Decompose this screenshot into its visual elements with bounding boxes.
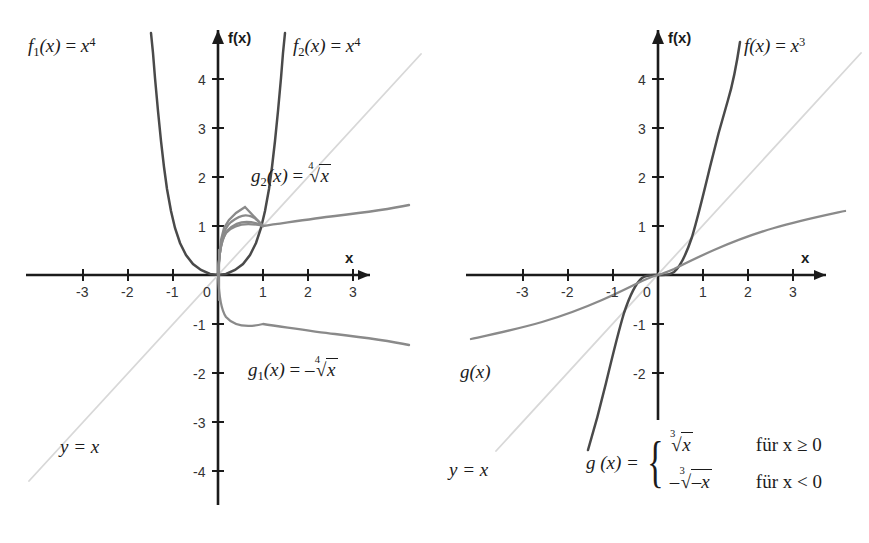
left-ytick-4: 4 bbox=[198, 73, 206, 87]
right-y-axis-name: f(x) bbox=[668, 30, 691, 45]
piecewise-brace: { bbox=[647, 441, 664, 485]
label-identity-right: y = x bbox=[449, 460, 488, 481]
label-f-expr: x bbox=[791, 35, 799, 56]
label-g2-arg: (x) bbox=[267, 165, 288, 186]
radical-index: 4 bbox=[315, 354, 320, 366]
curve-g1 bbox=[218, 275, 409, 345]
left-ytick--2: -2 bbox=[193, 367, 205, 381]
label-f1-exp: 4 bbox=[89, 35, 95, 49]
label-g1-arg: (x) bbox=[264, 359, 285, 380]
radical-radicand: x bbox=[682, 434, 690, 455]
left-y-axis-name: f(x) bbox=[228, 30, 251, 45]
label-f1: f1(x) = x4 bbox=[28, 36, 96, 60]
piecewise-case-1: 3√x für x ≥ 0 bbox=[670, 432, 822, 456]
left-xtick--2: -2 bbox=[121, 285, 133, 299]
left-x-axis bbox=[26, 269, 370, 281]
radical-index: 3 bbox=[680, 465, 685, 476]
piecewise-definition: g (x) = { 3√x für x ≥ 0 –3√–x für x < 0 bbox=[586, 432, 822, 493]
right-ytick-3: 3 bbox=[638, 122, 646, 136]
piecewise-case-2-expr: –3√–x bbox=[670, 469, 756, 493]
left-xtick--1: -1 bbox=[166, 285, 178, 299]
left-ytick--1: -1 bbox=[193, 318, 205, 332]
radical-4-x: 4√x bbox=[308, 164, 331, 187]
label-f1-arg: (x) bbox=[40, 35, 61, 56]
label-g1-name: g bbox=[248, 359, 258, 380]
piecewise-case-2-minus: – bbox=[670, 471, 680, 492]
right-chart-panel: -3 -2 -1 0 1 2 3 1 2 3 4 -1 -2 x f(x) f(… bbox=[434, 0, 869, 543]
left-xtick--3: -3 bbox=[76, 285, 88, 299]
left-ytick-2: 2 bbox=[198, 171, 206, 185]
label-f2-eq: = bbox=[330, 35, 341, 56]
left-xtick-2: 2 bbox=[304, 285, 312, 299]
label-g1-minus: – bbox=[305, 359, 315, 380]
curve-f-cubic bbox=[588, 42, 740, 450]
label-f-cubic: f(x) = x3 bbox=[744, 36, 805, 57]
label-g2-eq: = bbox=[293, 165, 304, 186]
label-g: g(x) bbox=[460, 362, 491, 383]
right-xtick-1: 1 bbox=[699, 285, 707, 299]
label-g-name: g bbox=[460, 361, 470, 382]
curve-f1 bbox=[151, 33, 218, 275]
right-xtick-3: 3 bbox=[789, 285, 797, 299]
radical-neg-4-x: 4√x bbox=[315, 358, 338, 381]
radical-radicand: x bbox=[320, 165, 328, 186]
label-g1-eq: = bbox=[290, 359, 301, 380]
radical-index: 4 bbox=[308, 160, 313, 172]
piecewise-case-2-condition: für x < 0 bbox=[756, 471, 822, 493]
function-graph-figure: -3 -2 -1 0 1 2 3 1 2 3 4 -1 -2 -3 -4 x f… bbox=[0, 0, 869, 543]
label-f2: f2(x) = x4 bbox=[293, 36, 361, 60]
left-x-axis-name: x bbox=[345, 250, 353, 265]
left-ytick--4: -4 bbox=[193, 465, 205, 479]
left-xtick-1: 1 bbox=[259, 285, 267, 299]
right-xtick--2: -2 bbox=[561, 285, 573, 299]
right-xtick-0: 0 bbox=[643, 285, 651, 299]
right-ytick-1: 1 bbox=[638, 220, 646, 234]
right-ytick--1: -1 bbox=[633, 318, 645, 332]
radical-radicand: –x bbox=[692, 471, 710, 492]
label-f2-arg: (x) bbox=[305, 35, 326, 56]
right-xtick-2: 2 bbox=[744, 285, 752, 299]
left-ytick-3: 3 bbox=[198, 122, 206, 136]
radical-neg-3-neg-x: 3√–x bbox=[679, 469, 712, 493]
label-g-arg: (x) bbox=[470, 361, 491, 382]
right-ytick--2: -2 bbox=[633, 367, 645, 381]
radical-index: 3 bbox=[670, 428, 675, 439]
label-identity-left: y = x bbox=[60, 437, 99, 458]
left-chart-panel: -3 -2 -1 0 1 2 3 1 2 3 4 -1 -2 -3 -4 x f… bbox=[0, 0, 435, 543]
piecewise-case-1-condition: für x ≥ 0 bbox=[756, 434, 822, 456]
right-xtick--1: -1 bbox=[606, 285, 618, 299]
label-f-arg: (x) bbox=[749, 35, 770, 56]
label-f-eq: = bbox=[775, 35, 786, 56]
left-ytick-1: 1 bbox=[198, 220, 206, 234]
piecewise-case-1-expr: 3√x bbox=[670, 432, 756, 456]
left-identity-line bbox=[29, 54, 421, 481]
piecewise-cases: 3√x für x ≥ 0 –3√–x für x < 0 bbox=[670, 432, 822, 493]
right-ytick-4: 4 bbox=[638, 73, 646, 87]
right-y-axis bbox=[652, 30, 664, 420]
left-xtick-0: 0 bbox=[203, 285, 211, 299]
right-xtick--3: -3 bbox=[516, 285, 528, 299]
left-chart-canvas bbox=[0, 0, 435, 543]
label-g2-name: g bbox=[251, 165, 261, 186]
left-xtick-3: 3 bbox=[349, 285, 357, 299]
label-g2: g2(x) = 4√x bbox=[251, 164, 331, 190]
piecewise-case-2: –3√–x für x < 0 bbox=[670, 469, 822, 493]
label-f2-exp: 4 bbox=[354, 35, 360, 49]
right-ytick-2: 2 bbox=[638, 171, 646, 185]
label-f-exp: 3 bbox=[799, 35, 805, 49]
piecewise-lhs: g (x) = bbox=[586, 452, 642, 474]
label-f1-eq: = bbox=[65, 35, 76, 56]
radical-radicand: x bbox=[327, 359, 335, 380]
right-x-axis-name: x bbox=[801, 250, 809, 265]
radical-3-x: 3√x bbox=[670, 432, 693, 456]
label-g1: g1(x) = –4√x bbox=[248, 358, 338, 384]
left-ytick--3: -3 bbox=[193, 416, 205, 430]
